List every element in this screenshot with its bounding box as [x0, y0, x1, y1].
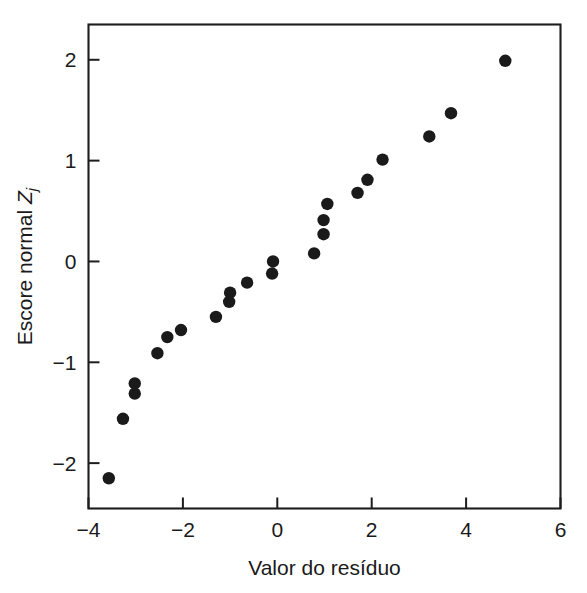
data-point: [117, 413, 129, 425]
data-point: [321, 198, 333, 210]
x-tick-label: 0: [271, 518, 283, 541]
scatter-points-layer: [103, 55, 512, 485]
data-point: [224, 287, 236, 299]
x-tick-label: 2: [366, 518, 378, 541]
data-point: [267, 255, 279, 267]
data-point: [445, 107, 457, 119]
data-point: [161, 331, 173, 343]
data-point: [129, 377, 141, 389]
plot-canvas: −4−20246 210−1−2 Valor do resíduoEscore …: [0, 0, 587, 593]
axes-frame: [89, 25, 561, 509]
y-tick-label: −1: [53, 351, 77, 374]
x-tick-label: −4: [77, 518, 101, 541]
y-tick-label: 2: [65, 48, 77, 71]
y-axis-ticks: 210−1−2: [53, 48, 100, 474]
data-point: [266, 267, 278, 279]
y-axis-title-text: Escore normal: [13, 204, 36, 345]
y-axis-title: Escore normal Zj: [13, 187, 40, 345]
data-point: [175, 324, 187, 336]
data-point: [151, 347, 163, 359]
y-tick-label: −2: [53, 452, 77, 475]
data-point: [499, 55, 511, 67]
x-axis-title: Valor do resíduo: [248, 556, 401, 579]
y-axis-title-symbol: Z: [13, 190, 36, 205]
x-axis-ticks: −4−20246: [77, 498, 567, 541]
data-point: [317, 214, 329, 226]
x-tick-label: 4: [460, 518, 472, 541]
y-tick-label: 0: [65, 250, 77, 273]
axis-labels-layer: Valor do resíduoEscore normal Zj: [13, 187, 401, 579]
x-tick-label: −2: [171, 518, 195, 541]
plot-frame: [89, 25, 561, 509]
data-point: [103, 472, 115, 484]
data-point: [376, 153, 388, 165]
y-tick-label: 1: [65, 149, 77, 172]
data-point: [241, 276, 253, 288]
x-tick-label: 6: [555, 518, 567, 541]
data-point: [317, 228, 329, 240]
normal-probability-plot-figure: −4−20246 210−1−2 Valor do resíduoEscore …: [0, 0, 587, 593]
data-point: [210, 311, 222, 323]
data-point: [351, 187, 363, 199]
data-point: [423, 130, 435, 142]
data-point: [361, 174, 373, 186]
data-point: [308, 247, 320, 259]
